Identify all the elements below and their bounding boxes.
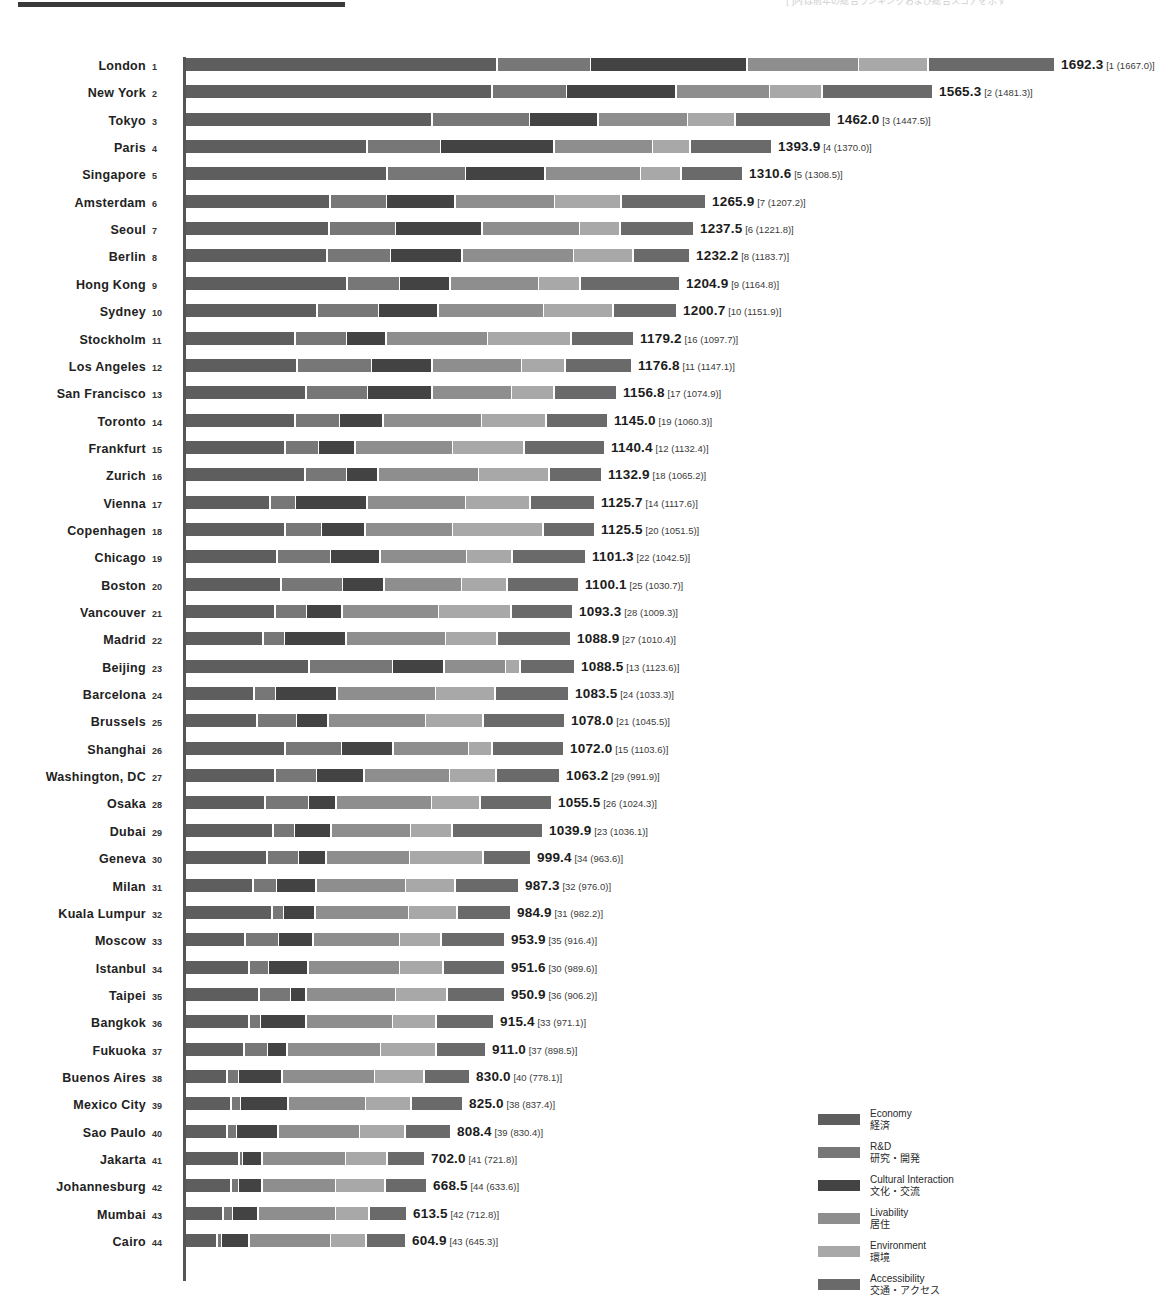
stacked-bar [186,851,531,864]
value-label: 1692.3 [1 (1667.0)] [1061,57,1155,72]
legend-text: Livability居住 [870,1207,1010,1231]
bar-segment-r-d [276,769,316,782]
value-label: 830.0 [40 (778.1)] [476,1069,562,1084]
bar-segment-cultural-interaction [309,796,335,809]
bar-segment-livability [394,742,468,755]
bar-segment-r-d [271,496,295,509]
bar-segment-livability [384,414,481,427]
city-label: Paris [0,141,146,155]
total-score: 1078.0 [571,713,614,728]
bar-segment-livability [456,195,554,208]
chart-row: Barcelona241083.5 [24 (1033.3)] [0,686,1016,713]
stacked-bar [186,1125,451,1138]
previous-rank-score: [35 (916.4)] [546,935,597,946]
total-score: 950.9 [511,987,546,1002]
bar-segment-economy [186,605,274,618]
bar-segment-environment [574,249,632,262]
bar-segment-accessibility [547,414,607,427]
previous-rank-score: [12 (1132.4)] [653,443,709,454]
bar-segment-r-d [232,1097,240,1110]
value-label: 911.0 [37 (898.5)] [492,1042,577,1057]
city-label: Washington, DC [0,770,146,784]
chart-row: Madrid221088.9 [27 (1010.4)] [0,631,1016,658]
city-label: Singapore [0,168,146,182]
rank-number: 27 [152,773,172,783]
bar-segment-livability [748,58,858,71]
bar-segment-livability [289,1097,365,1110]
bar-segment-r-d [228,1070,238,1083]
bar-segment-cultural-interaction [269,961,307,974]
bar-segment-economy [186,1015,248,1028]
city-label: Vienna [0,497,146,511]
chart-row: Toronto141145.0 [19 (1060.3)] [0,413,1016,440]
chart-row: Sydney101200.7 [10 (1151.9)] [0,303,1016,330]
stacked-bar [186,578,579,591]
header-note: [ ]内は前年の総合ランキングおよび総合スコアを示す [676,0,1006,7]
bar-segment-r-d [282,578,342,591]
city-label: Copenhagen [0,524,146,538]
legend-text: Environment環境 [870,1240,1010,1264]
bar-segment-accessibility [458,906,510,919]
bar-segment-r-d [307,386,367,399]
chart-row: Hong Kong91204.9 [9 (1164.8)] [0,276,1016,303]
rank-number: 5 [152,171,172,181]
bar-segment-accessibility [386,1179,426,1192]
chart-row: Berlin81232.2 [8 (1183.7)] [0,248,1016,275]
bar-segment-accessibility [531,496,594,509]
bar-segment-livability [555,140,652,153]
bar-segment-r-d [276,605,306,618]
value-label: 1176.8 [11 (1147.1)] [638,358,735,373]
value-label: 1100.1 [25 (1030.7)] [585,577,683,592]
bar-segment-accessibility [621,222,693,235]
bar-segment-r-d [318,304,378,317]
bar-segment-environment [450,769,495,782]
previous-rank-score: [21 (1045.5)] [614,716,671,727]
bar-segment-r-d [286,441,318,454]
bar-segment-r-d [250,1015,260,1028]
bar-segment-accessibility [691,140,771,153]
value-label: 951.6 [30 (989.6)] [511,960,597,975]
header-rule [18,2,345,7]
bar-segment-environment [400,933,440,946]
city-label: Madrid [0,633,146,647]
bar-segment-livability [343,605,438,618]
value-label: 825.0 [38 (837.4)] [469,1096,555,1111]
bar-segment-economy [186,386,305,399]
previous-rank-score: [4 (1370.0)] [821,142,872,153]
bar-segment-economy [186,359,296,372]
city-label: Istanbul [0,962,146,976]
total-score: 1176.8 [638,358,680,373]
rank-number: 6 [152,199,172,209]
chart-row: Milan31987.3 [32 (976.0)] [0,878,1016,905]
rank-number: 37 [152,1047,172,1057]
legend-label-ja: 研究・開発 [870,1153,1010,1165]
previous-rank-score: [32 (976.0)] [560,881,611,892]
bar-segment-r-d [250,961,268,974]
city-label: Taipei [0,989,146,1003]
bar-segment-r-d [264,632,284,645]
rank-number: 35 [152,992,172,1002]
bar-segment-economy [186,550,276,563]
total-score: 1237.5 [700,221,743,236]
bar-segment-livability [433,386,511,399]
bar-segment-livability [329,714,425,727]
bar-segment-economy [186,441,284,454]
bar-segment-environment [859,58,927,71]
legend-text: Economy経済 [870,1108,1010,1132]
bar-segment-accessibility [412,1097,462,1110]
bar-segment-r-d [286,523,321,536]
bar-segment-accessibility [370,1207,406,1220]
stacked-bar [186,824,543,837]
bar-segment-cultural-interaction [393,660,443,673]
stacked-bar [186,687,569,700]
bar-segment-livability [385,578,461,591]
bar-segment-environment [366,1097,410,1110]
bar-segment-accessibility [572,332,633,345]
rank-number: 14 [152,418,172,428]
chart-row: Paris41393.9 [4 (1370.0)] [0,139,1016,166]
previous-rank-score: [27 (1010.4)] [620,634,677,645]
stacked-bar [186,742,564,755]
stacked-bar [186,550,586,563]
bar-segment-cultural-interaction [347,468,377,481]
rank-number: 40 [152,1129,172,1139]
